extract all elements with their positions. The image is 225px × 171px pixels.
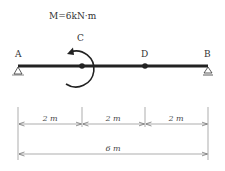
dimension-label-total: 6 m bbox=[105, 144, 121, 153]
beam-diagram: M=6kN·m A C D B 2 m 2 m 2 m 6 m bbox=[0, 0, 225, 171]
roller-support-b-icon bbox=[203, 67, 213, 75]
dimension-label-db: 2 m bbox=[167, 114, 184, 123]
moment-label: M=6kN·m bbox=[49, 11, 97, 21]
dimension-label-ac: 2 m bbox=[41, 114, 58, 123]
point-label-a: A bbox=[14, 49, 22, 59]
pin-support-a-icon bbox=[12, 67, 24, 75]
point-label-c: C bbox=[77, 33, 84, 43]
hinge-c bbox=[79, 63, 85, 69]
point-label-b: B bbox=[204, 49, 211, 59]
point-label-d: D bbox=[141, 49, 148, 59]
dimension-label-cd: 2 m bbox=[104, 114, 121, 123]
hinge-d bbox=[142, 63, 148, 69]
